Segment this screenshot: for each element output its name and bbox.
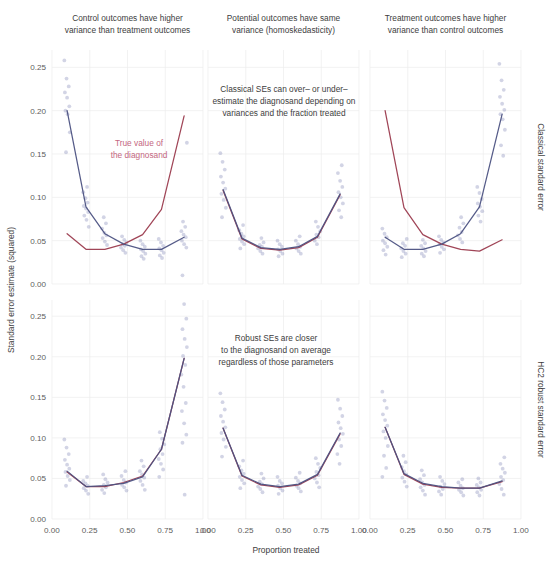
data-point (143, 245, 147, 249)
data-point (402, 454, 406, 458)
data-point (338, 462, 342, 466)
data-point (461, 221, 465, 225)
data-point (141, 483, 145, 487)
figure-root: 0.000.050.100.150.200.250.000.050.100.15… (0, 0, 552, 578)
data-point (382, 248, 386, 252)
annotation-classical-se: Classical SEs can over– or under– (220, 84, 348, 94)
facet-column-title: variance than control outcomes (388, 25, 503, 35)
data-point (501, 154, 505, 158)
data-point (299, 252, 303, 256)
data-point (502, 108, 506, 112)
data-point (500, 102, 504, 106)
data-point (260, 236, 264, 240)
x-axis-tick-label: 0.50 (276, 526, 292, 535)
data-point (183, 493, 187, 497)
data-point (438, 475, 442, 479)
data-point (218, 151, 222, 155)
data-point (260, 472, 264, 476)
data-point (63, 458, 67, 462)
data-point (339, 444, 343, 448)
data-point (502, 455, 506, 459)
data-point (276, 475, 280, 479)
data-point (499, 143, 503, 147)
annotation-classical-se: estimate the diagnosand depending on (212, 96, 355, 106)
data-point (459, 215, 463, 219)
y-axis-tick-label: 0.05 (30, 237, 46, 246)
data-point (497, 62, 501, 66)
data-point (159, 462, 163, 466)
data-point (161, 452, 165, 456)
y-axis-tick-label: 0.25 (30, 312, 46, 321)
data-point (65, 96, 69, 100)
data-point (62, 438, 66, 442)
data-point (106, 481, 110, 485)
data-point (143, 488, 147, 492)
data-point (403, 244, 407, 248)
x-axis-tick-label: 0.75 (475, 526, 491, 535)
data-point (340, 414, 344, 418)
data-point (85, 185, 89, 189)
data-point (85, 218, 89, 222)
data-point (157, 237, 161, 241)
scatter-layer (218, 391, 344, 495)
annotation-true-value: True value of (115, 138, 164, 148)
data-point (338, 179, 342, 183)
data-point (381, 412, 385, 416)
data-point (476, 214, 480, 218)
annotation-robust-se: to the diagnosand on average (221, 345, 331, 355)
data-point (182, 385, 186, 389)
data-point (339, 215, 343, 219)
data-point (476, 202, 480, 206)
data-point (101, 236, 105, 240)
data-point (385, 406, 389, 410)
data-point (461, 494, 465, 498)
data-point (67, 467, 71, 471)
data-point (421, 489, 425, 493)
data-point (403, 480, 407, 484)
data-point (480, 209, 484, 213)
data-point (87, 225, 91, 229)
data-point (162, 251, 166, 255)
data-point (384, 436, 388, 440)
data-point (443, 482, 447, 486)
data-point (340, 185, 344, 189)
panel-grid (52, 300, 203, 519)
data-point (223, 168, 227, 172)
data-point (280, 245, 284, 249)
data-point (458, 237, 462, 241)
data-point (382, 430, 386, 434)
y-axis-tick-label: 0.05 (30, 474, 46, 483)
data-point (400, 255, 404, 259)
data-point (221, 181, 225, 185)
data-point (340, 163, 344, 167)
y-axis-tick-label: 0.20 (30, 353, 46, 362)
data-point (184, 317, 188, 321)
data-point (276, 239, 280, 243)
data-point (385, 245, 389, 249)
data-point (386, 444, 390, 448)
data-point (317, 485, 321, 489)
data-point (503, 128, 507, 132)
data-point (478, 494, 482, 498)
data-point (315, 481, 319, 485)
scatter-layer (62, 302, 188, 496)
data-point (143, 252, 147, 256)
data-point (123, 469, 127, 473)
annotation-robust-se: Robust SEs are closer (235, 333, 318, 343)
data-point (104, 477, 108, 481)
data-point (158, 430, 162, 434)
data-point (140, 459, 144, 463)
data-point (104, 221, 108, 225)
data-point (479, 220, 483, 224)
data-point (316, 225, 320, 229)
x-axis-tick-label: 0.00 (44, 526, 60, 535)
data-point (139, 479, 143, 483)
data-point (85, 475, 89, 479)
data-point (86, 492, 90, 496)
series-line (385, 114, 502, 249)
data-point (336, 171, 340, 175)
data-point (457, 481, 461, 485)
data-point (220, 455, 224, 459)
data-point (67, 452, 71, 456)
data-point (223, 408, 227, 412)
